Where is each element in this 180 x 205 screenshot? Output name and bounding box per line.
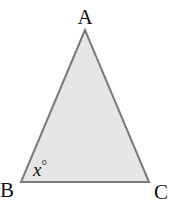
triangle-diagram: A B C x° (0, 0, 180, 205)
degree-symbol: ° (41, 158, 47, 173)
vertex-label-b: B (0, 178, 14, 202)
vertex-label-c: C (154, 180, 168, 204)
vertex-label-a: A (77, 5, 93, 29)
